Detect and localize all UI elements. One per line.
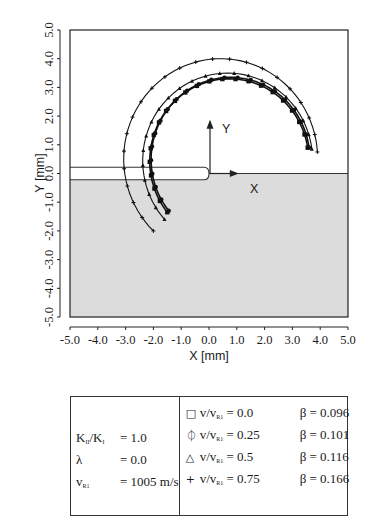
data-point-circle xyxy=(273,89,277,93)
local-x-axis-label: X xyxy=(250,182,259,196)
data-point-circle xyxy=(197,82,201,86)
data-point-plus xyxy=(315,150,319,154)
x-tick-label: -3.0 xyxy=(116,333,136,347)
param-lambda: λ = 0.0 xyxy=(76,449,179,471)
y-tick-label: 3.0 xyxy=(42,80,56,96)
x-tick-label: 0.0 xyxy=(201,333,217,347)
y-tick-label: -5.0 xyxy=(42,307,56,327)
data-point-circle xyxy=(165,107,169,111)
beta-value: β = 0.101 xyxy=(300,427,350,443)
y-tick-label: 4.0 xyxy=(42,51,56,67)
data-point-plus xyxy=(211,57,215,61)
plus-marker-icon: + xyxy=(186,473,200,486)
local-y-arrow-icon xyxy=(207,120,214,129)
square-marker-icon: □ xyxy=(186,407,200,420)
param-value: = 1.0 xyxy=(120,430,147,446)
x-tick-label: -1.0 xyxy=(171,333,191,347)
x-tick-label: 3.0 xyxy=(285,333,301,347)
y-tick-label: 1.0 xyxy=(42,137,56,153)
beta-value: β = 0.166 xyxy=(300,471,350,487)
data-point-circle xyxy=(261,82,265,86)
data-point-plus xyxy=(228,57,232,61)
data-point-circle xyxy=(307,145,311,149)
x-tick-label: 4.0 xyxy=(312,333,328,347)
data-point-circle xyxy=(185,88,189,92)
data-point-plus xyxy=(125,132,129,136)
legend-entry: △ v/vR1 = 0.5 β = 0.116 xyxy=(186,446,350,468)
data-point-plus xyxy=(122,149,126,153)
data-point-circle xyxy=(235,75,239,79)
data-point-triangle xyxy=(144,134,148,138)
x-tick-label: 2.0 xyxy=(257,333,273,347)
x-tick-label: -4.0 xyxy=(88,333,108,347)
param-value: = 1005 m/s xyxy=(120,474,179,490)
data-point-triangle xyxy=(141,148,145,152)
y-tick-label: -2.0 xyxy=(42,221,56,241)
data-point-circle xyxy=(149,158,153,162)
series-legend: □ v/vR1 = 0.0 β = 0.096 ⏀ v/vR1 = 0.25 β… xyxy=(180,397,350,515)
x-tick-label: -2.0 xyxy=(144,333,164,347)
specimen-region xyxy=(70,174,348,318)
data-point-circle xyxy=(222,75,226,79)
crack-path-chart: -5.0-4.0-3.0-2.0-1.00.01.02.03.04.05.0-5… xyxy=(0,0,372,395)
y-tick-label: 5.0 xyxy=(42,22,56,38)
circle-marker-icon: ⏀ xyxy=(186,427,200,443)
triangle-marker-icon: △ xyxy=(186,451,200,464)
legend-box: KII/KI = 1.0 λ = 0.0 vR1 = 1005 m/s □ v/… xyxy=(70,396,348,516)
data-point-plus xyxy=(244,60,248,64)
notch xyxy=(70,167,209,180)
data-point-plus xyxy=(313,133,317,137)
beta-value: β = 0.116 xyxy=(300,449,349,465)
y-tick-label: -1.0 xyxy=(42,192,56,212)
legend-entry: □ v/vR1 = 0.0 β = 0.096 xyxy=(186,402,350,424)
data-point-plus xyxy=(194,60,198,64)
y-tick-label: -4.0 xyxy=(42,278,56,298)
data-point-circle xyxy=(166,209,170,213)
param-kii-ki: KII/KI = 1.0 xyxy=(76,427,179,449)
x-tick-label: 1.0 xyxy=(229,333,245,347)
x-tick-label: -5.0 xyxy=(60,333,80,347)
param-value: = 0.0 xyxy=(120,452,147,468)
y-axis-title: Y [mm] xyxy=(33,153,47,192)
data-point-plus xyxy=(178,66,182,70)
parameters-panel: KII/KI = 1.0 λ = 0.0 vR1 = 1005 m/s xyxy=(71,397,180,515)
data-point-circle xyxy=(150,144,154,148)
data-point-plus xyxy=(131,115,135,119)
data-point-circle xyxy=(249,78,253,82)
data-point-circle xyxy=(174,97,178,101)
data-point-circle xyxy=(153,131,157,135)
x-tick-label: 5.0 xyxy=(340,333,356,347)
data-point-plus xyxy=(307,116,311,120)
data-point-triangle xyxy=(141,163,145,167)
data-point-circle xyxy=(209,78,213,82)
x-axis-title: X [mm] xyxy=(189,349,229,363)
data-point-circle xyxy=(150,172,154,176)
data-point-circle xyxy=(158,118,162,122)
data-point-plus xyxy=(260,66,264,70)
legend-entry: ⏀ v/vR1 = 0.25 β = 0.101 xyxy=(186,424,350,446)
param-vr1: vR1 = 1005 m/s xyxy=(76,471,179,493)
y-tick-label: 2.0 xyxy=(42,108,56,124)
y-tick-label: -3.0 xyxy=(42,250,56,270)
beta-value: β = 0.096 xyxy=(300,405,350,421)
data-point-circle xyxy=(159,197,163,201)
data-point-circle xyxy=(154,185,158,189)
local-y-axis-label: Y xyxy=(222,122,231,136)
legend-entry: + v/vR1 = 0.75 β = 0.166 xyxy=(186,468,350,490)
